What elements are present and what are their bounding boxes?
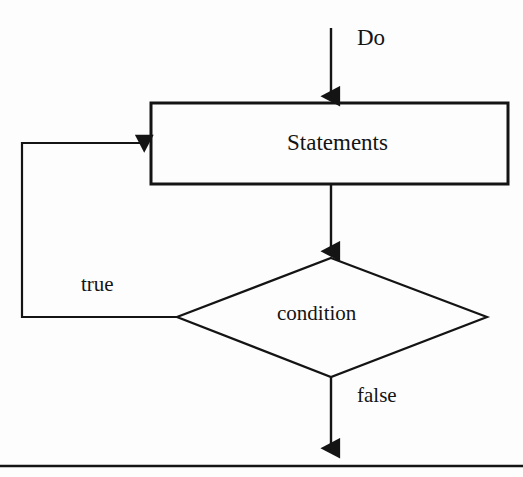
condition-label: condition bbox=[277, 303, 356, 324]
branch-label-false: false bbox=[357, 385, 397, 406]
flowchart-canvas: Do Statements condition true false bbox=[0, 0, 523, 477]
statements-label: Statements bbox=[287, 131, 388, 154]
entry-label-do: Do bbox=[357, 26, 385, 49]
branch-label-true: true bbox=[81, 274, 114, 295]
flowchart-drawing bbox=[0, 0, 523, 477]
